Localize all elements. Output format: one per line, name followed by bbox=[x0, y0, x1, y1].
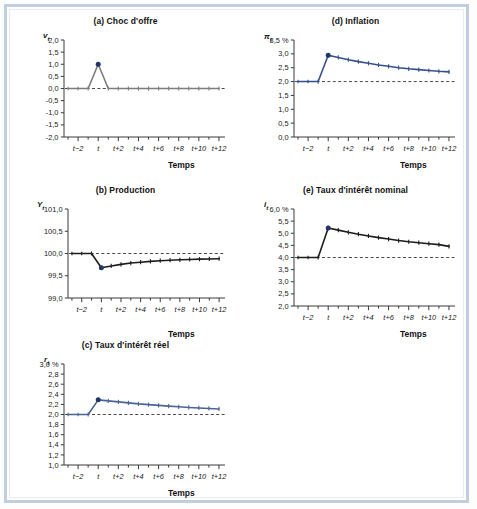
svg-text:t+12: t+12 bbox=[212, 305, 227, 314]
panel-c-xlabel: Temps bbox=[168, 488, 195, 498]
svg-text:t+12: t+12 bbox=[212, 144, 227, 153]
svg-text:t−2: t−2 bbox=[73, 144, 83, 153]
panel-b: (b) Production Yt 101,0100,5100,099,599,… bbox=[18, 185, 233, 345]
svg-text:t+12: t+12 bbox=[212, 472, 227, 481]
svg-text:t+2: t+2 bbox=[113, 472, 123, 481]
svg-text:1,5: 1,5 bbox=[48, 48, 58, 57]
svg-text:t: t bbox=[97, 472, 100, 481]
svg-text:3,0 %: 3,0 % bbox=[40, 360, 59, 369]
svg-text:1,6: 1,6 bbox=[48, 430, 58, 439]
svg-text:t+2: t+2 bbox=[343, 313, 353, 322]
panel-a-title: (a) Choc d'offre bbox=[18, 16, 233, 26]
panel-d: (d) Inflation πt 3,5 %3,02,52,01,51,00,5… bbox=[248, 16, 463, 176]
svg-text:1,0: 1,0 bbox=[48, 461, 58, 470]
svg-text:t+10: t+10 bbox=[422, 313, 437, 322]
panel-e-xlabel: Temps bbox=[400, 329, 427, 339]
panel-c: (c) Taux d'intérêt réel rt 3,0 %2,82,62,… bbox=[18, 340, 233, 505]
svg-text:t+2: t+2 bbox=[113, 144, 123, 153]
svg-text:t+10: t+10 bbox=[422, 144, 437, 153]
panel-e-title: (e) Taux d'intérêt nominal bbox=[248, 185, 463, 195]
svg-text:t+2: t+2 bbox=[116, 305, 126, 314]
svg-text:4,5: 4,5 bbox=[278, 241, 288, 250]
svg-text:3,5 %: 3,5 % bbox=[270, 36, 289, 45]
svg-text:t+6: t+6 bbox=[155, 305, 166, 314]
panel-b-xlabel: Temps bbox=[168, 329, 195, 339]
svg-text:101,0: 101,0 bbox=[44, 205, 63, 214]
svg-text:2,0: 2,0 bbox=[48, 410, 58, 419]
panel-b-plot: 101,0100,5100,099,599,0t−2tt+2t+4t+6t+8t… bbox=[18, 185, 233, 345]
panel-a-ylabel: vt bbox=[43, 31, 49, 42]
panel-d-title: (d) Inflation bbox=[248, 16, 463, 26]
svg-text:2,2: 2,2 bbox=[48, 400, 58, 409]
panel-c-ylabel: rt bbox=[44, 355, 49, 366]
svg-text:t+8: t+8 bbox=[403, 144, 414, 153]
svg-text:1,5: 1,5 bbox=[278, 91, 288, 100]
panel-e: (e) Taux d'intérêt nominal it 6,0 %5,55,… bbox=[248, 185, 463, 345]
svg-text:t+12: t+12 bbox=[442, 144, 457, 153]
panel-a-ylabel-sub: t bbox=[47, 36, 49, 42]
panel-e-ylabel: it bbox=[264, 200, 268, 211]
svg-text:t+4: t+4 bbox=[135, 305, 145, 314]
svg-text:t+4: t+4 bbox=[133, 472, 143, 481]
panel-a: (a) Choc d'offre vt 2,01,51,00,50,0-0,5-… bbox=[18, 16, 233, 176]
figure-container: (a) Choc d'offre vt 2,01,51,00,50,0-0,5-… bbox=[0, 0, 477, 509]
panel-e-ylabel-sub: t bbox=[266, 205, 268, 211]
svg-text:t+12: t+12 bbox=[442, 313, 457, 322]
svg-text:t+6: t+6 bbox=[383, 144, 394, 153]
panel-b-ylabel: Yt bbox=[37, 200, 44, 211]
panel-c-title: (c) Taux d'intérêt réel bbox=[18, 340, 233, 350]
svg-text:2,5: 2,5 bbox=[278, 289, 288, 298]
svg-text:t+2: t+2 bbox=[343, 144, 353, 153]
svg-text:t: t bbox=[97, 144, 100, 153]
svg-text:1,0: 1,0 bbox=[278, 105, 288, 114]
svg-text:t+10: t+10 bbox=[192, 472, 207, 481]
svg-text:2,0: 2,0 bbox=[48, 36, 58, 45]
svg-text:t+8: t+8 bbox=[173, 144, 184, 153]
svg-text:5,5: 5,5 bbox=[278, 217, 288, 226]
svg-text:5,0: 5,0 bbox=[278, 229, 288, 238]
svg-text:t+6: t+6 bbox=[383, 313, 394, 322]
svg-text:t+8: t+8 bbox=[173, 472, 184, 481]
panel-b-ylabel-sub: t bbox=[42, 205, 44, 211]
panel-a-xlabel: Temps bbox=[168, 160, 195, 170]
svg-text:99,0: 99,0 bbox=[48, 294, 62, 303]
svg-text:t+10: t+10 bbox=[192, 144, 207, 153]
panel-d-xlabel: Temps bbox=[400, 160, 427, 170]
svg-text:t+8: t+8 bbox=[403, 313, 414, 322]
svg-text:t: t bbox=[327, 144, 330, 153]
svg-text:3,5: 3,5 bbox=[278, 265, 288, 274]
svg-text:2,4: 2,4 bbox=[48, 390, 58, 399]
svg-text:-1,5: -1,5 bbox=[46, 120, 59, 129]
svg-text:-0,5: -0,5 bbox=[46, 96, 59, 105]
svg-text:1,2: 1,2 bbox=[48, 451, 58, 460]
svg-text:t−2: t−2 bbox=[76, 305, 86, 314]
svg-text:4,0: 4,0 bbox=[278, 253, 288, 262]
svg-text:0,5: 0,5 bbox=[278, 119, 288, 128]
panel-d-ylabel: πt bbox=[264, 32, 272, 43]
svg-text:100,0: 100,0 bbox=[44, 249, 63, 258]
panel-d-ylabel-sub: t bbox=[270, 37, 272, 43]
svg-text:1,4: 1,4 bbox=[48, 440, 58, 449]
svg-text:2,6: 2,6 bbox=[48, 380, 58, 389]
svg-text:1,8: 1,8 bbox=[48, 420, 58, 429]
panel-c-ylabel-sub: t bbox=[47, 360, 49, 366]
svg-text:2,8: 2,8 bbox=[48, 370, 58, 379]
svg-text:6,0 %: 6,0 % bbox=[270, 205, 289, 214]
svg-text:0,0: 0,0 bbox=[48, 84, 58, 93]
svg-text:99,5: 99,5 bbox=[48, 271, 62, 280]
panel-d-plot: 3,5 %3,02,52,01,51,00,50,0t−2tt+2t+4t+6t… bbox=[248, 16, 463, 176]
panel-e-plot: 6,0 %5,55,04,54,03,53,02,52,0t−2tt+2t+4t… bbox=[248, 185, 463, 345]
svg-text:2,5: 2,5 bbox=[278, 63, 288, 72]
svg-text:-1,0: -1,0 bbox=[46, 108, 59, 117]
panel-a-plot: 2,01,51,00,50,0-0,5-1,0-1,5-2,0t−2tt+2t+… bbox=[18, 16, 233, 176]
svg-text:0,5: 0,5 bbox=[48, 72, 58, 81]
svg-text:1,0: 1,0 bbox=[48, 60, 58, 69]
svg-text:t+6: t+6 bbox=[153, 144, 164, 153]
panel-c-plot: 3,0 %2,82,62,42,22,01,81,61,41,21,0t−2tt… bbox=[18, 340, 233, 505]
svg-text:2,0: 2,0 bbox=[278, 77, 288, 86]
svg-text:2,0: 2,0 bbox=[278, 302, 288, 311]
svg-text:t+4: t+4 bbox=[363, 144, 373, 153]
svg-text:t−2: t−2 bbox=[303, 313, 313, 322]
svg-text:t−2: t−2 bbox=[303, 144, 313, 153]
svg-text:3,0: 3,0 bbox=[278, 277, 288, 286]
